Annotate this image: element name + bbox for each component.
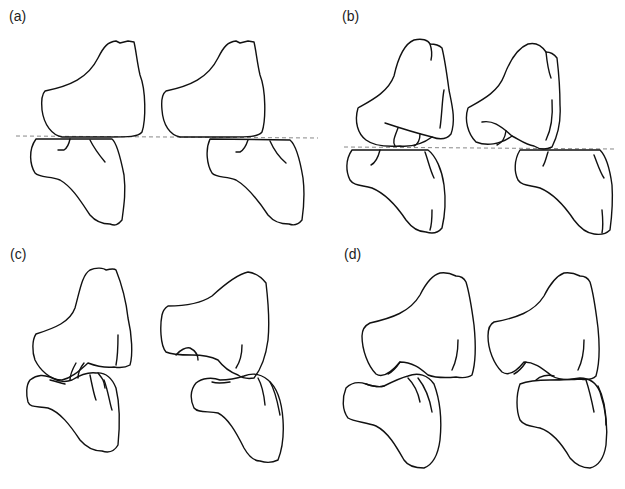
femur-d-right [488, 273, 599, 380]
tibia-b-left [347, 150, 445, 233]
femur-d-left [362, 273, 475, 378]
panel-b [344, 39, 614, 234]
femur-a-right [162, 41, 265, 137]
tibia-c-right [191, 374, 283, 462]
panel-d [343, 273, 607, 468]
tibia-b-right [515, 150, 612, 234]
reference-line-b [344, 147, 614, 149]
tibia-a-right [207, 139, 304, 225]
tibia-a-left [31, 139, 125, 225]
panel-c [27, 268, 284, 462]
figure: (a) (b) (c) (d) [0, 0, 625, 489]
femur-b-right [466, 43, 560, 149]
femur-c-right [161, 272, 269, 378]
femur-a-left [42, 41, 145, 137]
tibia-d-left [343, 374, 441, 468]
panel-a [16, 41, 318, 225]
femur-b-left [356, 39, 453, 146]
bone-drawings [0, 0, 625, 489]
tibia-d-right [517, 378, 607, 468]
